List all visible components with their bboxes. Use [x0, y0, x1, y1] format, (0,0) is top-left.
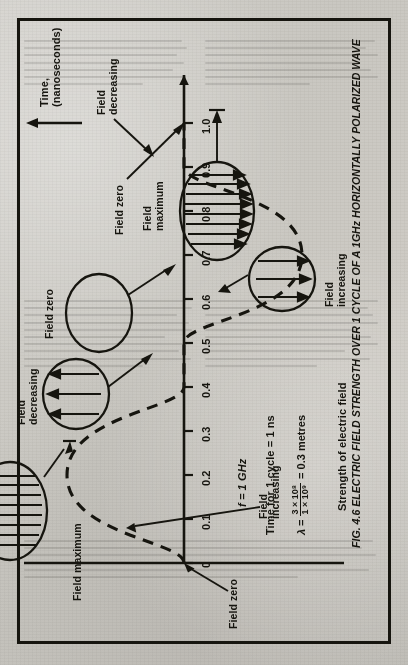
- annotation-line2: increasing: [270, 465, 282, 519]
- annotation-line2: decreasing: [108, 59, 120, 115]
- annotation-field-increasing-1: Field increasing: [258, 465, 282, 519]
- x-tick-label-10: 1.0: [200, 118, 212, 134]
- x-tick-label-04: 0.4: [200, 382, 212, 398]
- annotation-line1: Field zero: [114, 185, 126, 235]
- x-axis-title-line2: (nanoseconds): [50, 27, 62, 107]
- x-tick-label-08: 0.8: [200, 206, 212, 222]
- y-axis-title: Strength of electric field: [336, 382, 348, 511]
- x-axis-title-line1: Time,: [38, 27, 50, 107]
- lambda-denominator: 1 × 10⁹: [301, 483, 310, 517]
- annotation-line1: Field zero: [44, 289, 56, 339]
- note-wavelength: λ = 3 × 10⁸ 1 × 10⁹ = 0.3 metres: [291, 415, 311, 535]
- annotation-line1: Field: [142, 181, 154, 231]
- note-frequency: f = 1 GHz: [236, 387, 248, 507]
- lambda-fraction: 3 × 10⁸ 1 × 10⁹: [291, 483, 311, 517]
- x-tick-label-03: 0.3: [200, 426, 212, 442]
- annotation-field-zero-start: Field zero: [228, 579, 240, 629]
- x-tick-label-0: 0: [200, 562, 212, 568]
- scanned-page: 0 0.1 0.2 0.3 0.4 0.5 0.6 0.7 0.8 0.9 1.…: [0, 0, 408, 665]
- annotation-field-decreasing-2: Field decreasing: [96, 59, 120, 115]
- annotation-line1: Field maximum: [72, 523, 84, 601]
- annotation-field-zero-end: Field zero: [114, 185, 126, 235]
- annotation-line1: Field: [96, 59, 108, 115]
- annotation-line1: Field zero: [228, 579, 240, 629]
- x-tick-label-06: 0.6: [200, 294, 212, 310]
- x-tick-label-05: 0.5: [200, 338, 212, 354]
- annotation-line2: maximum: [154, 181, 166, 231]
- lambda-symbol: λ: [295, 529, 307, 535]
- x-tick-label-01: 0.1: [200, 514, 212, 530]
- marker-field-maximum-negative: [180, 110, 254, 260]
- figure-canvas: 0 0.1 0.2 0.3 0.4 0.5 0.6 0.7 0.8 0.9 1.…: [14, 31, 360, 631]
- annotation-line2: decreasing: [28, 369, 40, 425]
- annotation-line1: Field: [324, 253, 336, 307]
- annotation-field-maximum-negative: Field maximum: [142, 181, 166, 231]
- annotation-field-maximum-positive: Field maximum: [72, 523, 84, 601]
- x-tick-label-09: 0.9: [200, 162, 212, 178]
- marker-field-zero-mid: [66, 264, 176, 352]
- x-axis-title: Time, (nanoseconds): [38, 27, 63, 107]
- lambda-result: = 0.3 metres: [295, 415, 307, 479]
- x-axis-ticks: [184, 123, 193, 563]
- annotation-field-increasing-2: Field increasing: [324, 253, 348, 307]
- annotation-field-decreasing-1: Field decreasing: [16, 369, 40, 425]
- x-axis-arrowhead: [179, 75, 189, 85]
- leader-field-decreasing-2: [114, 119, 154, 157]
- figure-caption: FIG. 4.6 ELECTRIC FIELD STRENGTH OVER 1 …: [350, 128, 362, 548]
- x-tick-label-02: 0.2: [200, 470, 212, 486]
- leader-field-zero-end: [127, 122, 185, 179]
- waveform-plot: [14, 31, 360, 631]
- annotation-field-zero-mid: Field zero: [44, 289, 56, 339]
- annotation-line2: increasing: [336, 253, 348, 307]
- marker-field-decreasing-1: [43, 353, 153, 429]
- lambda-equals: =: [295, 519, 307, 525]
- x-tick-label-07: 0.7: [200, 250, 212, 266]
- annotation-line1: Field: [16, 369, 28, 425]
- lambda-numerator: 3 × 10⁸: [291, 483, 300, 517]
- time-direction-arrow: [26, 118, 82, 128]
- annotation-line1: Field: [258, 465, 270, 519]
